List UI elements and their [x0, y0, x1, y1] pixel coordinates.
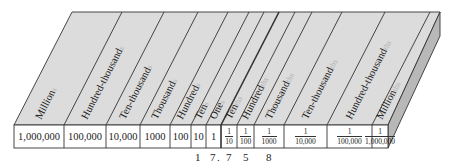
decimal-point: .: [217, 151, 220, 163]
place-value: 1,000,000: [18, 131, 60, 142]
numerator: 1: [244, 128, 248, 137]
place-value: 100,000: [68, 131, 102, 142]
place-value: 10: [193, 131, 204, 142]
denominator: 10: [225, 137, 233, 146]
fraction: 110,000: [295, 128, 316, 146]
numerator: 1: [378, 128, 382, 137]
place-value-cell: 10,000: [106, 125, 140, 148]
place-value-cell: 100,000: [64, 125, 106, 148]
place-value-cell: 1,000,000: [14, 125, 64, 148]
fraction: 11000: [262, 128, 277, 146]
place-value-cell: 10: [191, 125, 206, 148]
place-value-cell: 100: [170, 125, 191, 148]
place-value-cell: 1: [206, 125, 221, 148]
place-value: 1: [211, 131, 216, 142]
fraction: 1100,000: [337, 128, 361, 146]
numerator: 1: [227, 128, 231, 137]
numerator: 1: [304, 128, 308, 137]
example-digit: 8: [266, 151, 272, 163]
place-value-cell: 11,000,000: [372, 125, 388, 148]
place-value: 10,000: [109, 131, 138, 142]
place-value: 100: [173, 131, 189, 142]
denominator: 100: [240, 137, 251, 146]
example-digit: 5: [243, 151, 249, 163]
fraction: 1100: [240, 128, 251, 146]
fraction: 11,000,000: [365, 128, 395, 146]
example-digit: 7: [210, 151, 216, 163]
denominator: 10,000: [295, 137, 316, 146]
denominator: 1000: [262, 137, 277, 146]
fraction: 110: [225, 128, 233, 146]
denominator: 1,000,000: [365, 137, 395, 146]
place-value-cell: 110: [221, 125, 237, 148]
denominator: 100,000: [337, 137, 361, 146]
example-digit: 1: [195, 151, 201, 163]
numerator: 1: [348, 128, 352, 137]
numerator: 1: [267, 128, 271, 137]
place-value-cell: 110,000: [284, 125, 327, 148]
place-value-cell: 11000: [254, 125, 284, 148]
place-value-cell: 1000: [140, 125, 170, 148]
place-value-cell: 1100: [237, 125, 254, 148]
example-digit: 7: [226, 151, 232, 163]
place-value: 1000: [145, 131, 166, 142]
place-value-chart: MillionsHundred-thousandsTen-thousandsTh…: [0, 0, 458, 167]
